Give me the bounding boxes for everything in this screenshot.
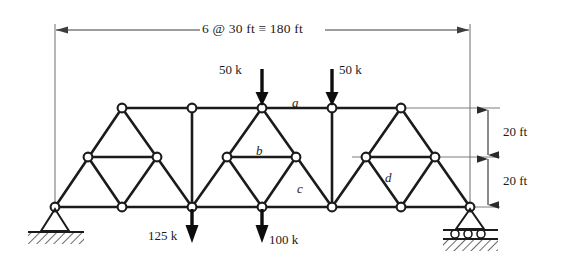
member-mid-inner-left (227, 157, 262, 207)
joint-bottom-2 (118, 203, 127, 212)
load-label-100k: 100 k (269, 232, 298, 248)
roller-2 (464, 230, 472, 238)
joint-bottom-6 (397, 203, 406, 212)
member-right-inner-left (366, 157, 401, 207)
load-arrow-50k-left (256, 69, 269, 106)
roller-support-right (443, 209, 498, 251)
joint-top-1 (118, 104, 127, 113)
joint-mid-6 (431, 153, 440, 162)
joint-top-5 (397, 104, 406, 113)
joint-top-2 (188, 104, 197, 113)
member-left-inner-left (88, 157, 122, 207)
load-arrow-125k (186, 209, 199, 243)
load-label-50k-right: 50 k (339, 62, 362, 78)
joint-mid-2 (153, 153, 162, 162)
pin-support-left (28, 209, 84, 244)
span-dimension-label: 6 @ 30 ft ≡ 180 ft (202, 21, 303, 37)
member-right-inner-right (401, 157, 435, 207)
roller-3 (477, 230, 485, 238)
load-label-50k-left: 50 k (219, 62, 242, 78)
joint-bottom-5 (328, 203, 337, 212)
load-arrow-100k (256, 209, 269, 243)
joint-mid-1 (84, 153, 93, 162)
member-label-c: c (297, 181, 303, 197)
member-label-b: b (256, 143, 263, 159)
member-label-a: a (292, 95, 299, 111)
joint-mid-3 (223, 153, 232, 162)
load-arrow-50k-right (326, 69, 339, 106)
load-label-125k: 125 k (148, 228, 177, 244)
member-mid-inner-right (262, 157, 296, 207)
joint-mid-4 (292, 153, 301, 162)
member-left-inner-right (122, 157, 157, 207)
roller-1 (451, 230, 459, 238)
truss-diagram (0, 0, 562, 267)
member-label-d: d (385, 170, 392, 186)
upper-height-label: 20 ft (503, 124, 527, 140)
lower-height-label: 20 ft (503, 173, 527, 189)
joint-mid-5 (362, 153, 371, 162)
